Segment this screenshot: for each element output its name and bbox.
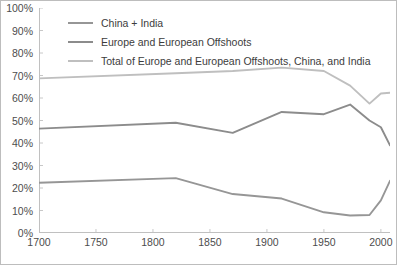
y-tick-label: 100% [6, 2, 33, 14]
legend-label: Total of Europe and European Offshoots, … [101, 55, 371, 67]
x-tick-label: 2000 [369, 236, 392, 248]
series-line-0 [39, 178, 390, 215]
legend-color-swatch [68, 41, 93, 43]
legend-color-swatch [68, 60, 93, 62]
y-tick-label: 80% [12, 47, 33, 59]
x-tick-label: 1750 [84, 236, 107, 248]
y-tick-label: 40% [12, 137, 33, 149]
legend-color-swatch [68, 22, 93, 24]
y-tick-label: 20% [12, 182, 33, 194]
legend-item[interactable]: China + India [68, 14, 371, 31]
legend-item[interactable]: Total of Europe and European Offshoots, … [68, 52, 371, 69]
series-line-2 [39, 68, 390, 104]
y-tick-label: 90% [12, 25, 33, 37]
x-axis-labels: 1700175018001850190019502000 [39, 236, 390, 256]
x-tick-label: 1900 [255, 236, 278, 248]
legend-item[interactable]: Europe and European Offshoots [68, 33, 371, 50]
series-line-1 [39, 105, 390, 146]
y-tick-label: 60% [12, 92, 33, 104]
y-tick-label: 70% [12, 70, 33, 82]
legend-label: China + India [101, 17, 163, 29]
y-tick-label: 50% [12, 115, 33, 127]
x-tick-label: 1700 [27, 236, 50, 248]
y-tick-label: 30% [12, 160, 33, 172]
chart-container: 100%90%80%70%60%50%40%30%20%10%0% 170017… [0, 0, 397, 265]
x-tick-label: 1850 [198, 236, 221, 248]
x-tick-label: 1950 [312, 236, 335, 248]
legend-label: Europe and European Offshoots [101, 36, 251, 48]
y-tick-label: 10% [12, 205, 33, 217]
y-axis-labels: 100%90%80%70%60%50%40%30%20%10%0% [0, 8, 33, 233]
chart-legend: China + IndiaEurope and European Offshoo… [68, 14, 371, 71]
x-tick-label: 1800 [141, 236, 164, 248]
